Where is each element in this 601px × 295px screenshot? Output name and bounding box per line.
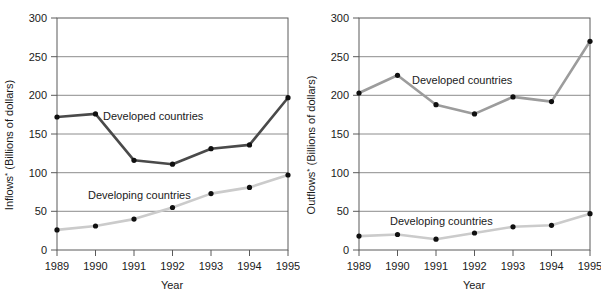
x-tick-label-1990-left: 1990 <box>83 260 107 272</box>
chart-panel-inflows: Inflows* (Billions of dollars) <box>0 0 300 295</box>
y-axis-title-right: Outflows* (Billions of dollars) <box>305 76 317 215</box>
y-tick-label-150-right: 150 <box>331 128 349 140</box>
x-tick-label-1990-right: 1990 <box>385 260 409 272</box>
y-tick-label-0-left: 0 <box>41 244 47 256</box>
outflows-chart-svg: Outflows* (Billions of dollars) <box>300 0 601 295</box>
x-tick-label-1993-right: 1993 <box>501 260 525 272</box>
y-tick-label-300-right: 300 <box>331 12 349 24</box>
y-tick-label-100-left: 100 <box>29 167 47 179</box>
y-tickmarks-right <box>353 18 359 250</box>
series-annotation-developing-left: Developing countries <box>88 189 191 201</box>
series-markers-developed-left <box>54 95 290 167</box>
figure-two-panel-line-charts: Inflows* (Billions of dollars) <box>0 0 601 295</box>
x-tickmarks-right <box>359 250 590 256</box>
x-tick-label-1993-left: 1993 <box>199 260 223 272</box>
x-tick-label-1994-right: 1994 <box>539 260 563 272</box>
y-axis-title-left-main: Inflows <box>3 175 15 210</box>
x-tick-label-1995-left: 1995 <box>276 260 300 272</box>
x-tick-label-1992-left: 1992 <box>160 260 184 272</box>
chart-panel-outflows: Outflows* (Billions of dollars) <box>300 0 601 295</box>
x-tick-label-1992-right: 1992 <box>462 260 486 272</box>
x-tickmarks-left <box>57 250 288 256</box>
y-tick-label-200-left: 200 <box>29 89 47 101</box>
x-axis-title-left: Year <box>161 279 184 291</box>
y-tick-label-100-right: 100 <box>331 167 349 179</box>
y-tick-label-250-right: 250 <box>331 51 349 63</box>
y-axis-title-right-main: Outflows <box>305 171 317 214</box>
x-tick-label-1991-left: 1991 <box>122 260 146 272</box>
x-tick-label-1994-left: 1994 <box>237 260 261 272</box>
x-axis-title-right: Year <box>463 279 486 291</box>
series-markers-developing-left <box>54 172 290 232</box>
inflows-chart-svg: Inflows* (Billions of dollars) <box>0 0 300 295</box>
y-tickmarks-left <box>51 18 57 250</box>
series-annotation-developed-left: Developed countries <box>103 110 204 122</box>
series-annotation-developing-right: Developing countries <box>390 215 493 227</box>
y-tick-label-50-right: 50 <box>337 205 349 217</box>
y-tick-label-50-left: 50 <box>35 205 47 217</box>
series-line-developing-left <box>57 175 288 230</box>
y-axis-title-right-tail: (Billions of dollars) <box>305 76 317 169</box>
y-axis-title-left: Inflows* (Billions of dollars) <box>3 80 15 210</box>
series-annotation-developed-right: Developed countries <box>412 74 513 86</box>
series-line-developed-left <box>57 98 288 165</box>
x-tick-label-1991-right: 1991 <box>424 260 448 272</box>
x-tick-label-1995-right: 1995 <box>578 260 601 272</box>
y-axis-title-left-tail: (Billions of dollars) <box>3 80 15 173</box>
y-tick-label-250-left: 250 <box>29 51 47 63</box>
y-tick-label-300-left: 300 <box>29 12 47 24</box>
y-tick-label-0-right: 0 <box>343 244 349 256</box>
x-tick-label-1989-left: 1989 <box>45 260 69 272</box>
x-tick-label-1989-right: 1989 <box>347 260 371 272</box>
y-tick-label-200-right: 200 <box>331 89 349 101</box>
y-tick-label-150-left: 150 <box>29 128 47 140</box>
